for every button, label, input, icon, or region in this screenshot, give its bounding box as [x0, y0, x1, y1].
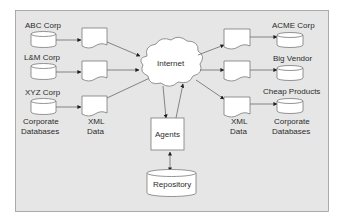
db-label-acme: ACME Corp: [272, 21, 315, 30]
internet-label: Internet: [157, 59, 185, 68]
right-db-caption-1: Corporate: [274, 117, 310, 126]
right-db-caption-2: Databases: [272, 127, 310, 136]
db-label-xyz: XYZ Corp: [25, 88, 61, 97]
db-label-bigvendor: Big Vendor: [273, 54, 312, 63]
architecture-diagram: ABC Corp L&M Corp XYZ Corp Corporate Dat…: [0, 0, 343, 221]
agents-box: Agents: [151, 118, 184, 150]
agents-label: Agents: [155, 130, 180, 139]
left-db-caption-1: Corporate: [23, 117, 59, 126]
db-label-abc: ABC Corp: [25, 21, 62, 30]
left-db-caption-2: Databases: [21, 127, 59, 136]
repository-label: Repository: [153, 180, 191, 189]
left-doc-caption-2: Data: [87, 127, 104, 136]
right-doc-caption-1: XML: [231, 117, 248, 126]
db-label-cheapproducts: Cheap Products: [263, 87, 320, 96]
left-doc-caption-1: XML: [88, 117, 105, 126]
repository-db: Repository: [147, 170, 196, 197]
db-label-lm: L&M Corp: [24, 53, 61, 62]
right-doc-caption-2: Data: [230, 127, 247, 136]
